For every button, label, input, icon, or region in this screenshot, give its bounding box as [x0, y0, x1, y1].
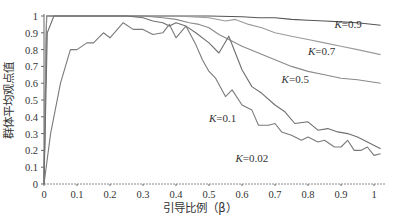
x-tick-label: 0.7 — [268, 189, 281, 200]
x-tick-label: 0.5 — [202, 189, 215, 200]
series-label: K=0.1 — [208, 112, 236, 124]
y-tick-label: 0.9 — [25, 28, 38, 39]
x-tick-label: 0.1 — [70, 189, 83, 200]
series-label: K=0.9 — [333, 18, 362, 30]
series-label: K=0.5 — [281, 73, 310, 85]
y-tick-label: 0.6 — [25, 78, 38, 89]
x-axis-title: 引导比例（β） — [163, 201, 236, 215]
x-tick-label: 0.3 — [136, 189, 149, 200]
x-tick-label: 0.6 — [235, 189, 248, 200]
chart-canvas: 00.10.20.30.40.50.60.70.80.9100.10.20.30… — [0, 0, 395, 221]
line-chart: 00.10.20.30.40.50.60.70.80.9100.10.20.30… — [0, 0, 395, 221]
y-tick-label: 0.8 — [25, 45, 38, 56]
y-axis-title: 群体平均观点值 — [2, 61, 16, 139]
x-tick-label: 0.9 — [334, 189, 347, 200]
series-label: K=0.02 — [234, 152, 268, 164]
series-label: K=0.7 — [307, 45, 336, 57]
series-lines — [44, 16, 381, 184]
x-tick-label: 0.4 — [169, 189, 183, 200]
y-tick-label: 1 — [33, 11, 38, 22]
x-tick-label: 0.8 — [301, 189, 314, 200]
x-tick-label: 0 — [41, 189, 46, 200]
axes: 00.10.20.30.40.50.60.70.80.9100.10.20.30… — [25, 11, 386, 200]
x-tick-label: 0.2 — [103, 189, 116, 200]
y-tick-label: 0.3 — [25, 129, 38, 140]
y-tick-label: 0.7 — [25, 61, 38, 72]
y-tick-label: 0.4 — [25, 112, 39, 123]
x-tick-label: 1 — [371, 189, 376, 200]
y-tick-label: 0.2 — [25, 145, 38, 156]
y-tick-label: 0.1 — [25, 162, 38, 173]
y-tick-label: 0.5 — [25, 95, 38, 106]
y-tick-label: 0 — [33, 179, 38, 190]
